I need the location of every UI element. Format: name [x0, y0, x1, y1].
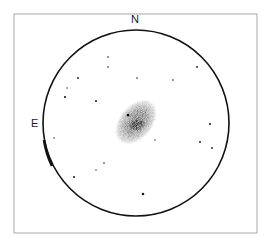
east-label: E — [31, 118, 38, 129]
superimposed-star — [127, 114, 130, 117]
star — [103, 162, 105, 164]
star — [95, 100, 97, 102]
star — [77, 77, 79, 79]
star — [53, 137, 54, 138]
star — [136, 77, 138, 79]
star — [73, 176, 75, 178]
star — [211, 147, 213, 149]
star — [199, 141, 201, 143]
star — [142, 193, 145, 196]
star — [66, 87, 67, 88]
star — [154, 139, 155, 140]
star — [209, 123, 211, 125]
star — [172, 79, 174, 81]
star — [64, 96, 66, 98]
star — [107, 56, 109, 58]
star — [196, 66, 198, 68]
star — [107, 66, 109, 68]
north-label: N — [131, 14, 139, 25]
eyepiece-sketch — [0, 0, 271, 246]
star — [95, 169, 96, 170]
